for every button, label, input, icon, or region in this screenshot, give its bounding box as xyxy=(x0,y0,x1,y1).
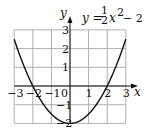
y-tick-label: −1 xyxy=(56,99,72,112)
x-tick-label: −2 xyxy=(26,87,42,100)
x-axis-label: x xyxy=(134,85,141,99)
svg-text:2: 2 xyxy=(101,14,108,27)
x-tick-label: 1 xyxy=(86,87,93,100)
svg-text:y =: y = xyxy=(81,11,103,25)
x-tick-label: 3 xyxy=(123,87,130,100)
svg-text:− 2: − 2 xyxy=(123,12,143,25)
y-tick-label: 2 xyxy=(62,43,69,56)
y-tick-label: 1 xyxy=(62,61,69,74)
y-tick-label: −2 xyxy=(56,117,72,130)
origin-label: 0 xyxy=(61,87,68,100)
equation-label: y = 1 2 x 2 − 2 xyxy=(81,4,143,27)
y-tick-label: 3 xyxy=(62,24,69,37)
x-tick-label: −3 xyxy=(7,87,23,100)
svg-text:x: x xyxy=(109,11,116,25)
x-tick-label: 2 xyxy=(104,87,111,100)
parabola-chart: −3−2−1123321−1−2 y x 0 y = 1 2 x 2 − 2 xyxy=(0,0,150,133)
y-axis-label: y xyxy=(59,6,67,20)
